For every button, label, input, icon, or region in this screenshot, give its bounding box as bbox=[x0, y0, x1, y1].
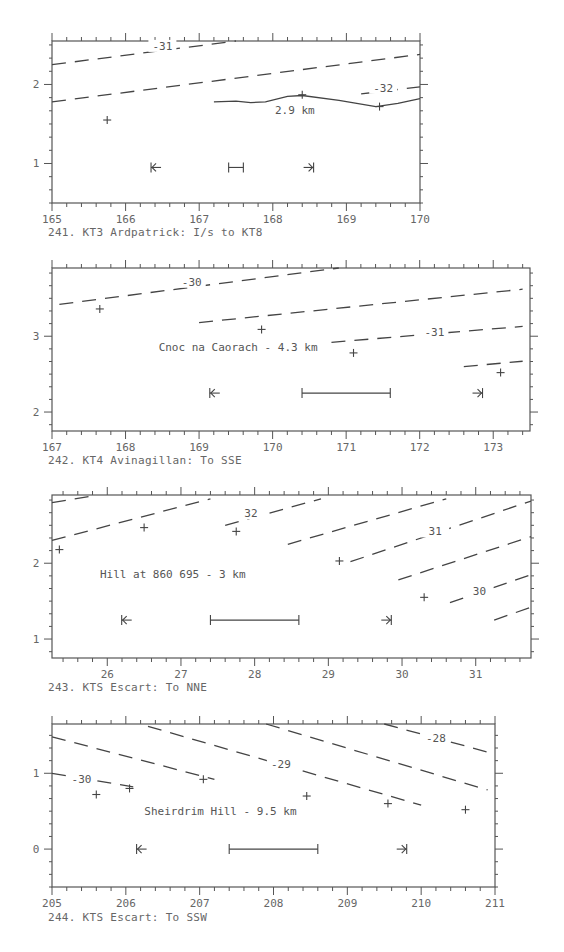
contour-label: -32 bbox=[373, 82, 393, 95]
contour-label: -31 bbox=[424, 326, 444, 339]
contour-line bbox=[398, 537, 531, 580]
x-tick-label: 166 bbox=[116, 213, 136, 226]
plus-marker-icon bbox=[335, 557, 343, 565]
x-tick-label: 210 bbox=[411, 897, 431, 910]
plus-marker-icon bbox=[96, 305, 104, 313]
contour-label: -31 bbox=[152, 40, 172, 53]
y-tick-label: 2 bbox=[33, 78, 40, 91]
x-tick-label: 167 bbox=[189, 213, 209, 226]
y-tick-label: 1 bbox=[33, 767, 40, 780]
scale-bar bbox=[302, 388, 390, 398]
plus-marker-icon bbox=[92, 791, 100, 799]
plus-marker-icon bbox=[376, 103, 384, 111]
scale-bar bbox=[210, 615, 298, 625]
x-tick-label: 169 bbox=[336, 213, 356, 226]
x-tick-label: 169 bbox=[189, 441, 209, 454]
contour-label: 30 bbox=[473, 585, 486, 598]
x-tick-label: 170 bbox=[410, 213, 430, 226]
contour-line bbox=[52, 41, 236, 65]
y-tick-label: 3 bbox=[33, 330, 40, 343]
plus-marker-icon bbox=[140, 524, 148, 532]
x-tick-label: 167 bbox=[42, 441, 62, 454]
contour-line bbox=[52, 54, 420, 101]
plus-marker-icon bbox=[232, 527, 240, 535]
x-tick-label: 172 bbox=[410, 441, 430, 454]
contour-label: 31 bbox=[429, 525, 442, 538]
right-limit-arrow-icon bbox=[381, 615, 391, 625]
contour-label: -30 bbox=[72, 773, 92, 786]
plus-marker-icon bbox=[384, 800, 392, 808]
contour-label: -28 bbox=[426, 732, 446, 745]
y-tick-label: 2 bbox=[33, 406, 40, 419]
plus-marker-icon bbox=[420, 593, 428, 601]
plus-marker-icon bbox=[199, 775, 207, 783]
chart-caption-244: 244. KTS Escart: To SSW bbox=[48, 911, 207, 924]
chart-caption-243: 243. KTS Escart: To NNE bbox=[48, 681, 207, 694]
plus-marker-icon bbox=[497, 369, 505, 377]
x-tick-label: 168 bbox=[263, 213, 283, 226]
x-tick-label: 26 bbox=[101, 668, 114, 681]
x-tick-label: 208 bbox=[264, 897, 284, 910]
x-tick-label: 170 bbox=[263, 441, 283, 454]
x-tick-label: 207 bbox=[190, 897, 210, 910]
x-tick-label: 31 bbox=[469, 668, 482, 681]
x-tick-label: 29 bbox=[322, 668, 335, 681]
x-tick-label: 206 bbox=[116, 897, 136, 910]
horizon-profile-line bbox=[214, 96, 420, 107]
contour-line bbox=[464, 361, 523, 366]
x-tick-label: 168 bbox=[116, 441, 136, 454]
chart-caption-242: 242. KT4 Avinagillan: To SSE bbox=[48, 454, 242, 467]
x-tick-label: 28 bbox=[248, 668, 261, 681]
chart-caption-241: 241. KT3 Ardpatrick: I/s to KT8 bbox=[48, 226, 263, 239]
chart-242: 16716816917017117217323-30-31Cnoc na Cao… bbox=[33, 260, 538, 454]
landmark-annotation: Cnoc na Caorach - 4.3 km bbox=[159, 341, 318, 354]
contour-line bbox=[266, 724, 488, 790]
x-tick-label: 30 bbox=[395, 668, 408, 681]
contour-line bbox=[199, 289, 523, 322]
chart-241: 16516616716816917012-31-322.9 km bbox=[33, 33, 430, 226]
x-tick-label: 209 bbox=[337, 897, 357, 910]
contour-line bbox=[52, 499, 210, 541]
plus-marker-icon bbox=[303, 792, 311, 800]
contour-line bbox=[494, 607, 531, 620]
x-tick-label: 165 bbox=[42, 213, 62, 226]
contour-line bbox=[52, 497, 89, 503]
y-tick-label: 1 bbox=[33, 633, 40, 646]
profile-distance-label: 2.9 km bbox=[275, 104, 315, 117]
left-limit-arrow-icon bbox=[137, 844, 147, 854]
left-limit-arrow-icon bbox=[210, 388, 220, 398]
plus-marker-icon bbox=[55, 546, 63, 554]
right-limit-arrow-icon bbox=[473, 388, 483, 398]
left-limit-arrow-icon bbox=[122, 615, 132, 625]
chart-243: 26272829303112323130Hill at 860 695 - 3 … bbox=[33, 487, 539, 681]
landmark-annotation: Sheirdrim Hill - 9.5 km bbox=[144, 805, 297, 818]
x-tick-label: 205 bbox=[42, 897, 62, 910]
right-limit-arrow-icon bbox=[397, 844, 407, 854]
plus-marker-icon bbox=[103, 116, 111, 124]
plus-marker-icon bbox=[258, 325, 266, 333]
left-limit-arrow-icon bbox=[151, 162, 161, 172]
contour-label: -29 bbox=[271, 758, 291, 771]
chart-244: 20520620720820921021101-30-29-28Sheirdri… bbox=[33, 716, 505, 910]
contour-label: 32 bbox=[244, 507, 257, 520]
plus-marker-icon bbox=[298, 91, 306, 99]
contour-label: -30 bbox=[182, 276, 202, 289]
scale-bar bbox=[229, 162, 244, 172]
landmark-annotation: Hill at 860 695 - 3 km bbox=[100, 568, 246, 581]
x-tick-label: 211 bbox=[485, 897, 505, 910]
x-tick-label: 173 bbox=[483, 441, 503, 454]
scale-bar bbox=[229, 844, 318, 854]
right-limit-arrow-icon bbox=[304, 162, 314, 172]
chart-canvas: 16516616716816917012-31-322.9 km16716816… bbox=[0, 0, 564, 952]
x-tick-label: 27 bbox=[174, 668, 187, 681]
y-tick-label: 2 bbox=[33, 557, 40, 570]
plus-marker-icon bbox=[461, 806, 469, 814]
plus-marker-icon bbox=[350, 349, 358, 357]
x-tick-label: 171 bbox=[336, 441, 356, 454]
y-tick-label: 1 bbox=[33, 157, 40, 170]
y-tick-label: 0 bbox=[33, 843, 40, 856]
